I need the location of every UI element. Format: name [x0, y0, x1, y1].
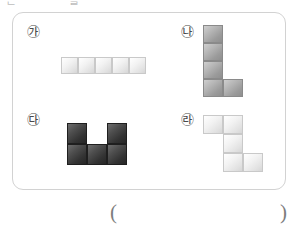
answer-open-paren: ( [110, 200, 117, 225]
shape-cell [223, 79, 243, 97]
shape-cell [67, 123, 87, 144]
option-da-shape [67, 123, 127, 165]
answer-close-paren: ) [280, 200, 287, 225]
shape-cell [129, 57, 146, 74]
option-na-shape [203, 25, 243, 97]
shape-cell [67, 144, 87, 165]
shape-cell [223, 134, 243, 153]
shape-cell-empty [203, 153, 223, 172]
shape-cell [107, 144, 127, 165]
answer-row: ( ) [12, 196, 286, 236]
option-ra-label: ㉱ [181, 113, 194, 126]
shape-cell [203, 79, 223, 97]
option-da-label: ㉰ [27, 113, 40, 126]
option-na-label: ㉯ [181, 25, 194, 38]
shape-cell [203, 61, 223, 79]
clipped-header-strip: ᆫ ᆞ ᆞ ᆯ ᆞ ᆞ ᆞ [0, 0, 299, 9]
shape-cell [203, 25, 223, 43]
shape-cell-empty [243, 115, 263, 134]
option-da[interactable]: ㉰ [17, 107, 169, 187]
option-ga-shape [61, 57, 146, 74]
question-panel: ㉮ ㉯ ㉰ ㉱ [12, 12, 286, 190]
shape-cell [61, 57, 78, 74]
option-ra[interactable]: ㉱ [171, 107, 283, 187]
shape-cell [87, 144, 107, 165]
shape-cell [78, 57, 95, 74]
shape-cell [203, 43, 223, 61]
shape-cell [203, 115, 223, 134]
shape-cell-empty [243, 134, 263, 153]
shape-cell-empty [223, 43, 243, 61]
shape-cell-empty [223, 61, 243, 79]
shape-cell [223, 153, 243, 172]
shape-cell-empty [203, 134, 223, 153]
shape-cell [223, 115, 243, 134]
shape-cell [112, 57, 129, 74]
clipped-header-text: ᆫ ᆞ ᆞ ᆯ ᆞ ᆞ ᆞ [6, 0, 146, 7]
shape-cell [95, 57, 112, 74]
shape-cell [243, 153, 263, 172]
shape-cell-empty [87, 123, 107, 144]
option-na[interactable]: ㉯ [171, 19, 283, 105]
option-ga[interactable]: ㉮ [17, 19, 169, 105]
option-ra-shape [203, 115, 263, 172]
shape-cell-empty [223, 25, 243, 43]
shape-cell [107, 123, 127, 144]
option-ga-label: ㉮ [27, 25, 40, 38]
